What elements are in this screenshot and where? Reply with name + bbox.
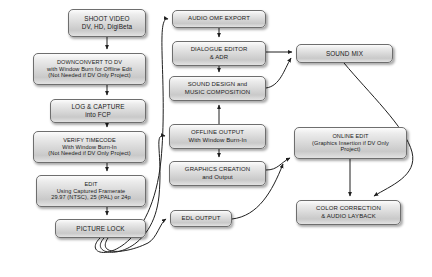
sound-mix-node[interactable]: SOUND MIX — [296, 44, 393, 63]
verify-timecode-node[interactable]: VERIFY TIMECODE With Window Burn-In (Not… — [33, 131, 146, 163]
verify-timecode-label: VERIFY TIMECODE With Window Burn-In (Not… — [48, 137, 130, 157]
downconvert-to-dv-label: DOWNCONVERT TO DV with Window Burn for O… — [47, 59, 132, 79]
shoot-video-node[interactable]: SHOOT VIDEO DV, HD, DigiBeta — [68, 9, 146, 37]
edge-sound-design-to-sound-mix — [266, 58, 291, 88]
edit-label: EDIT Using Captured Framerate 29.97 (NTS… — [51, 181, 131, 201]
shoot-video-label: SHOOT VIDEO DV, HD, DigiBeta — [82, 15, 132, 30]
sound-mix-label: SOUND MIX — [326, 50, 363, 58]
dialogue-editor-and-adr-node[interactable]: DIALOGUE EDITOR & ADR — [172, 41, 266, 66]
audio-omf-export-node[interactable]: AUDIO OMF EXPORT — [172, 10, 266, 28]
picture-lock-label: PICTURE LOCK — [76, 225, 124, 233]
edl-output-node[interactable]: EDL OUTPUT — [170, 210, 232, 227]
edl-output-label: EDL OUTPUT — [182, 215, 221, 222]
color-correction-and-audio-layback-node[interactable]: COLOR CORRECTION & AUDIO LAYBACK — [296, 200, 401, 225]
online-edit-label: ONLINE EDIT (Graphics Insertion if DV On… — [312, 133, 389, 153]
graphics-creation-and-output-label: GRAPHICS CREATION and Output — [185, 166, 250, 180]
audio-omf-export-label: AUDIO OMF EXPORT — [188, 15, 250, 22]
graphics-creation-and-output-node[interactable]: GRAPHICS CREATION and Output — [169, 161, 266, 186]
online-edit-node[interactable]: ONLINE EDIT (Graphics Insertion if DV On… — [294, 127, 407, 159]
offline-output-node[interactable]: OFFLINE OUTPUT With Window Burn-In — [169, 124, 266, 149]
sound-design-and-music-composition-label: SOUND DESIGN and MUSIC COMPOSITION — [185, 81, 250, 95]
color-correction-and-audio-layback-label: COLOR CORRECTION & AUDIO LAYBACK — [316, 205, 381, 219]
workflow-diagram: SHOOT VIDEO DV, HD, DigiBeta DOWNCONVERT… — [0, 0, 432, 277]
edge-graphics-creation-to-online-edit — [266, 158, 290, 170]
log-and-capture-node[interactable]: LOG & CAPTURE into FCP — [50, 99, 146, 123]
log-and-capture-label: LOG & CAPTURE into FCP — [71, 103, 124, 118]
dialogue-editor-and-adr-label: DIALOGUE EDITOR & ADR — [191, 46, 248, 60]
offline-output-label: OFFLINE OUTPUT With Window Burn-In — [188, 129, 246, 143]
picture-lock-node[interactable]: PICTURE LOCK — [55, 219, 146, 238]
downconvert-to-dv-node[interactable]: DOWNCONVERT TO DV with Window Burn for O… — [33, 53, 146, 85]
sound-design-and-music-composition-node[interactable]: SOUND DESIGN and MUSIC COMPOSITION — [169, 76, 266, 101]
edit-node[interactable]: EDIT Using Captured Framerate 29.97 (NTS… — [36, 175, 146, 207]
